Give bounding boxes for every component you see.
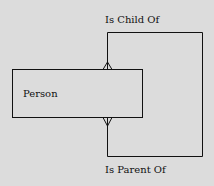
relationship-label-child: Is Child Of	[105, 14, 159, 25]
relationship-label-parent: Is Parent Of	[105, 164, 166, 175]
entity-label: Person	[23, 88, 58, 99]
crowsfoot-bottom-icon	[103, 118, 112, 127]
crowsfoot-top-icon	[103, 62, 112, 70]
recursive-relationship-line	[108, 33, 203, 157]
